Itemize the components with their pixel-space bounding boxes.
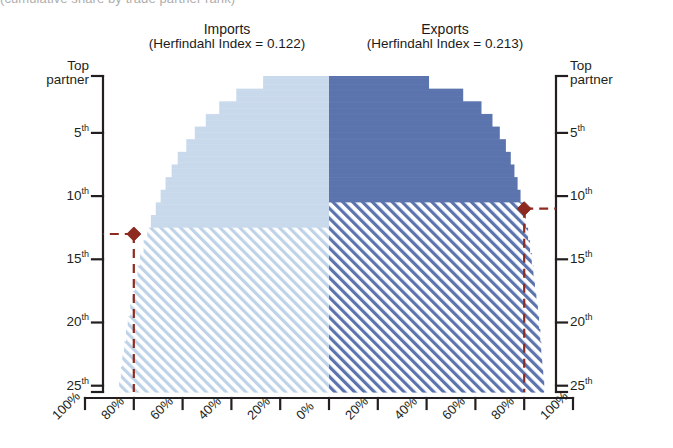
bar-exports-rank-24 (329, 367, 543, 380)
bar-imports-rank-1 (263, 76, 329, 89)
bar-exports-rank-6 (329, 139, 506, 152)
bar-exports-rank-3 (329, 101, 482, 114)
bar-imports-rank-15 (140, 253, 329, 266)
bar-exports-rank-7 (329, 152, 511, 165)
bar-imports-rank-3 (219, 101, 329, 114)
bar-imports-rank-20 (128, 316, 329, 329)
bar-imports-rank-21 (126, 329, 329, 342)
bar-imports-rank-2 (236, 89, 329, 102)
bar-exports-rank-9 (329, 177, 518, 190)
bar-imports-rank-22 (124, 341, 329, 354)
bar-exports-rank-14 (329, 240, 530, 253)
y-tick-right-25th: 25th (570, 377, 593, 393)
chart-figure: (cumulative share by trade partner rank)… (0, 0, 673, 448)
bar-imports-rank-19 (130, 304, 329, 317)
bar-imports-rank-14 (144, 240, 329, 253)
bar-exports-rank-16 (329, 266, 533, 279)
bar-exports-rank-12 (329, 215, 526, 228)
area-imports (119, 76, 329, 393)
y-tick-left-15th: 15th (66, 250, 89, 266)
bar-imports-rank-11 (156, 202, 329, 215)
y-tick-left-10th: 10th (66, 187, 89, 203)
bar-exports-rank-17 (329, 278, 535, 291)
marker-diamond-imports (127, 227, 141, 241)
bar-exports-rank-18 (329, 291, 536, 304)
bar-exports-rank-25 (329, 379, 544, 392)
bar-exports-rank-1 (329, 76, 429, 89)
bar-exports-rank-8 (329, 164, 514, 177)
area-exports (329, 76, 544, 393)
y-axis-left (92, 76, 103, 392)
bar-exports-rank-21 (329, 329, 540, 342)
bar-imports-rank-13 (147, 228, 329, 241)
bar-imports-rank-17 (135, 278, 329, 291)
y-tick-right-20th: 20th (570, 313, 593, 329)
bar-imports-rank-12 (151, 215, 329, 228)
bar-imports-rank-18 (133, 291, 329, 304)
bar-exports-rank-11 (329, 202, 523, 215)
y-tick-right-10th: 10th (570, 187, 593, 203)
bar-exports-rank-22 (329, 341, 541, 354)
bar-exports-rank-13 (329, 228, 528, 241)
bar-imports-rank-16 (137, 266, 329, 279)
bar-imports-rank-25 (119, 379, 329, 392)
y-tick-right-15th: 15th (570, 250, 593, 266)
bar-exports-rank-19 (329, 304, 538, 317)
bar-imports-rank-24 (121, 367, 329, 380)
bar-imports-rank-5 (195, 127, 329, 140)
bar-imports-rank-6 (186, 139, 329, 152)
bar-imports-rank-8 (172, 164, 329, 177)
y-tick-left-20th: 20th (66, 313, 89, 329)
bar-exports-rank-10 (329, 190, 521, 203)
bar-imports-rank-4 (206, 114, 329, 127)
bar-exports-rank-15 (329, 253, 532, 266)
bar-exports-rank-5 (329, 127, 500, 140)
y-tick-right-5th: 5th (570, 124, 585, 140)
bar-exports-rank-20 (329, 316, 539, 329)
bar-exports-rank-2 (329, 89, 463, 102)
bar-exports-rank-23 (329, 354, 542, 367)
bar-imports-rank-7 (178, 152, 329, 165)
y-tick-left-5th: 5th (74, 124, 89, 140)
y-tick-right-top-partner: Toppartner (570, 59, 613, 87)
bar-imports-rank-9 (166, 177, 329, 190)
bar-imports-rank-10 (161, 190, 329, 203)
bar-exports-rank-4 (329, 114, 492, 127)
y-axis-right (556, 76, 567, 392)
bar-imports-rank-23 (122, 354, 329, 367)
y-tick-left-top-partner: Toppartner (46, 59, 89, 87)
